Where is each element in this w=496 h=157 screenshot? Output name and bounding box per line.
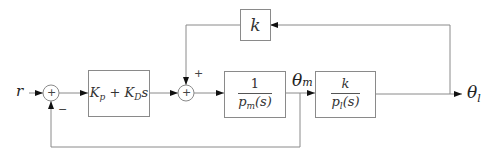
theta-m-label: θm	[292, 72, 313, 89]
controller-block: Kp + KDs	[88, 70, 150, 117]
motor-transfer-function: 1 pm(s)	[238, 77, 272, 111]
theta-l-label: θl	[467, 84, 481, 104]
input-label-r: r	[16, 84, 23, 99]
sum2-plus: +	[182, 87, 191, 98]
load-block: k pl(s)	[315, 71, 376, 118]
controller-label: Kp + KDs	[90, 85, 148, 102]
sum1-minus-sign: −	[58, 104, 67, 115]
block-diagram: r + + − + Kp + KDs 1 pm(s) k pl(s) k θm …	[0, 0, 496, 157]
load-transfer-function: k pl(s)	[331, 77, 359, 111]
coupling-gain-label: k	[250, 15, 260, 35]
sum1-plus: +	[47, 87, 56, 98]
motor-block: 1 pm(s)	[224, 71, 286, 118]
sum2-plus-sign: +	[194, 68, 203, 79]
coupling-gain-block: k	[240, 9, 271, 41]
